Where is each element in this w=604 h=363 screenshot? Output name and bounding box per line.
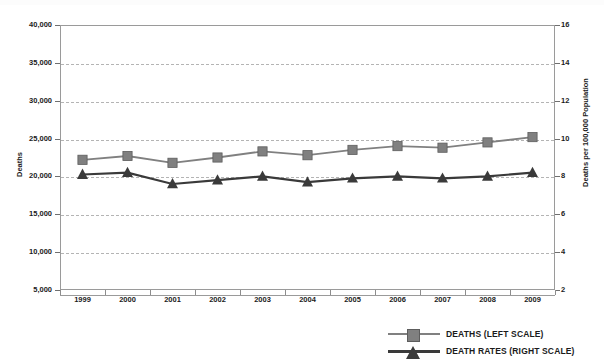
x-tick-label-1999: 1999 bbox=[74, 295, 91, 304]
x-tick-mark bbox=[465, 290, 466, 295]
x-tick-label-2009: 2009 bbox=[524, 295, 541, 304]
x-tick-mark bbox=[375, 290, 376, 295]
y-tick-mark-right bbox=[555, 101, 560, 102]
x-tick-label-2004: 2004 bbox=[299, 295, 316, 304]
legend-swatch-triangle bbox=[388, 343, 440, 359]
y-tick-mark-left bbox=[55, 101, 60, 102]
y-tick-mark-left bbox=[55, 139, 60, 140]
y-tick-mark-right bbox=[555, 176, 560, 177]
triangle-marker-icon bbox=[406, 346, 420, 359]
x-tick-mark bbox=[150, 290, 151, 295]
y-tick-label-right: 14 bbox=[561, 58, 581, 67]
y-tick-mark-left bbox=[55, 176, 60, 177]
y-tick-label-right: 16 bbox=[561, 20, 581, 29]
y-tick-mark-left bbox=[55, 214, 60, 215]
y-tick-label-right: 10 bbox=[561, 134, 581, 143]
y-axis-left-title: Deaths bbox=[15, 135, 24, 195]
chart-figure: 5,00010,00015,00020,00025,00030,00035,00… bbox=[0, 0, 604, 363]
x-tick-mark bbox=[285, 290, 286, 295]
x-tick-label-2003: 2003 bbox=[254, 295, 271, 304]
y-tick-mark-right bbox=[555, 63, 560, 64]
y-tick-label-right: 6 bbox=[561, 209, 581, 218]
square-marker-icon bbox=[407, 329, 420, 342]
x-tick-label-2000: 2000 bbox=[119, 295, 136, 304]
y-tick-label-right: 12 bbox=[561, 96, 581, 105]
y-tick-label-left: 30,000 bbox=[0, 96, 52, 105]
x-tick-mark bbox=[240, 290, 241, 295]
legend-label-deaths: DEATHS (LEFT SCALE) bbox=[446, 329, 544, 339]
x-tick-mark bbox=[105, 290, 106, 295]
y-tick-mark-right bbox=[555, 139, 560, 140]
x-tick-mark bbox=[510, 290, 511, 295]
y-tick-mark-left bbox=[55, 25, 60, 26]
y-tick-mark-right bbox=[555, 252, 560, 253]
y-tick-label-left: 35,000 bbox=[0, 58, 52, 67]
y-tick-label-right: 8 bbox=[561, 171, 581, 180]
y-tick-label-left: 15,000 bbox=[0, 209, 52, 218]
x-tick-label-2001: 2001 bbox=[164, 295, 181, 304]
x-tick-label-2008: 2008 bbox=[479, 295, 496, 304]
y-tick-label-right: 4 bbox=[561, 247, 581, 256]
x-tick-label-2006: 2006 bbox=[389, 295, 406, 304]
legend-swatch-square bbox=[388, 326, 440, 342]
x-tick-label-2005: 2005 bbox=[344, 295, 361, 304]
y-tick-mark-right bbox=[555, 25, 560, 26]
x-tick-mark bbox=[195, 290, 196, 295]
y-tick-label-left: 20,000 bbox=[0, 171, 52, 180]
legend-label-death-rates: DEATH RATES (RIGHT SCALE) bbox=[446, 346, 575, 356]
gridline bbox=[61, 177, 554, 178]
gridline bbox=[61, 64, 554, 65]
y-tick-mark-right bbox=[555, 214, 560, 215]
gridline bbox=[61, 102, 554, 103]
x-tick-mark bbox=[420, 290, 421, 295]
x-tick-label-2002: 2002 bbox=[209, 295, 226, 304]
gridline bbox=[61, 140, 554, 141]
gridline bbox=[61, 215, 554, 216]
y-tick-label-left: 5,000 bbox=[0, 285, 52, 294]
legend-item-deaths[interactable]: DEATHS (LEFT SCALE) bbox=[388, 325, 575, 342]
legend-item-death-rates[interactable]: DEATH RATES (RIGHT SCALE) bbox=[388, 342, 575, 359]
x-tick-mark bbox=[60, 290, 61, 295]
y-axis-right-title: Deaths per 100,000 Population bbox=[581, 53, 590, 213]
y-tick-label-left: 10,000 bbox=[0, 247, 52, 256]
clipped-header-band bbox=[0, 0, 604, 5]
y-tick-mark-left bbox=[55, 252, 60, 253]
y-tick-label-right: 2 bbox=[561, 285, 581, 294]
y-tick-mark-left bbox=[55, 63, 60, 64]
y-tick-label-left: 40,000 bbox=[0, 20, 52, 29]
gridline bbox=[61, 253, 554, 254]
x-tick-mark bbox=[555, 290, 556, 295]
x-tick-mark bbox=[330, 290, 331, 295]
plot-area bbox=[60, 25, 555, 290]
y-tick-label-left: 25,000 bbox=[0, 134, 52, 143]
chart-legend: DEATHS (LEFT SCALE) DEATH RATES (RIGHT S… bbox=[388, 325, 575, 359]
x-tick-label-2007: 2007 bbox=[434, 295, 451, 304]
